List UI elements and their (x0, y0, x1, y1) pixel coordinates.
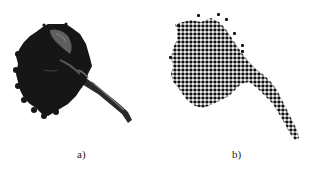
panel-label-a: a) (77, 148, 86, 160)
panel-a-photo: a) (0, 0, 158, 180)
panel-b-dot-matrix: b) (157, 0, 315, 180)
panel-label-b: b) (232, 148, 241, 160)
